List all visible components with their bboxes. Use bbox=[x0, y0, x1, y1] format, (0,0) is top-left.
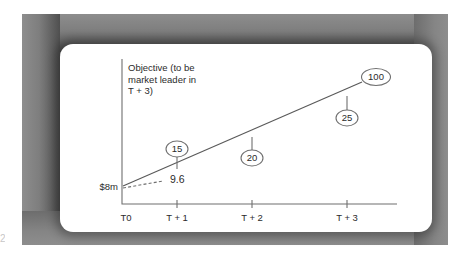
bubble-100-label: 100 bbox=[368, 71, 384, 82]
x-tick-label-t-plus-1: T + 1 bbox=[166, 212, 188, 223]
x-tick-label-t0: T0 bbox=[120, 212, 131, 223]
objective-note-line-2: market leader in bbox=[128, 74, 196, 85]
figure-card: 15 20 25 100 $8m 9.6 Objective (to be ma… bbox=[60, 44, 432, 232]
baseline-dashed-line bbox=[123, 181, 163, 188]
growth-chart: 15 20 25 100 $8m 9.6 Objective (to be ma… bbox=[60, 44, 432, 232]
bubble-25-label: 25 bbox=[342, 112, 353, 123]
bubble-15-label: 15 bbox=[172, 143, 183, 154]
y-axis-start-label: $8m bbox=[100, 181, 119, 192]
chart-svg: 15 20 25 100 $8m 9.6 Objective (to be ma… bbox=[60, 44, 432, 232]
x-tick-label-t-plus-3: T + 3 bbox=[336, 212, 358, 223]
baseline-value-label: 9.6 bbox=[170, 173, 185, 185]
bubble-20-label: 20 bbox=[247, 152, 258, 163]
page-edge-mark: 2 bbox=[0, 232, 5, 246]
objective-note-line-3: T + 3) bbox=[128, 85, 153, 96]
x-tick-label-t-plus-2: T + 2 bbox=[241, 212, 263, 223]
figure-frame: 15 20 25 100 $8m 9.6 Objective (to be ma… bbox=[22, 14, 448, 245]
trend-line bbox=[123, 82, 362, 186]
objective-note-line-1: Objective (to be bbox=[128, 62, 195, 73]
